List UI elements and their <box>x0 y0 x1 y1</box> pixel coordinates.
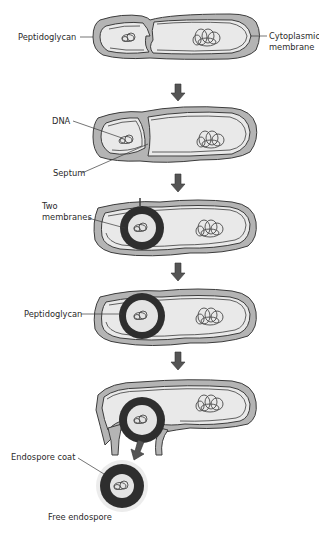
cytoplasmic-membrane-label-line2: membrane <box>269 42 314 52</box>
down-arrow-icon <box>171 263 185 281</box>
leader-line <box>78 458 104 474</box>
peptidoglycan-label-1: Peptidoglycan <box>18 32 76 42</box>
two-membranes-label: Two <box>41 201 58 211</box>
down-arrow-icon <box>171 84 185 101</box>
stage-5-cell <box>96 380 256 455</box>
stage-1-cell <box>93 14 260 59</box>
dna-label: DNA <box>52 116 71 126</box>
free-endospore <box>96 460 148 512</box>
down-left-arrow-icon <box>131 440 144 460</box>
stage-4-cell <box>94 289 256 346</box>
down-arrow-icon <box>171 352 185 370</box>
stage-3-cell <box>94 198 256 256</box>
septum-label: Septum <box>53 168 85 178</box>
endospore-formation-diagram: Peptidoglycan Cytoplasmic membrane DNA S… <box>0 0 319 534</box>
peptidoglycan-label-2: Peptidoglycan <box>24 309 82 319</box>
stage-2-cell <box>93 107 257 163</box>
free-endospore-label: Free endospore <box>48 512 112 522</box>
cytoplasmic-membrane-label: Cytoplasmic <box>269 31 319 41</box>
down-arrow-icon <box>171 174 185 192</box>
two-membranes-label-line2: membranes <box>42 212 92 222</box>
endospore-coat-label: Endospore coat <box>11 452 76 462</box>
